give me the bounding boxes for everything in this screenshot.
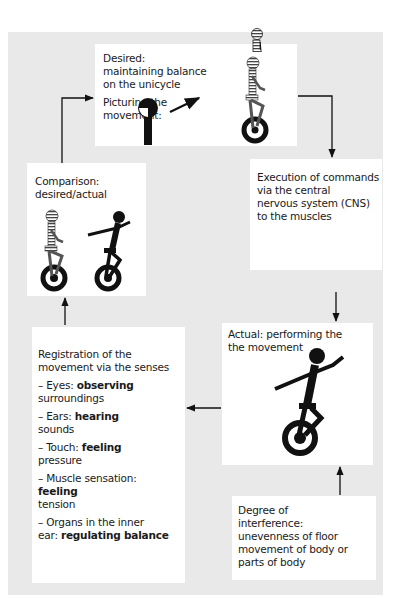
comparison-actual-unicyclist-icon — [88, 211, 130, 289]
arrow-comparison-to-desired — [62, 98, 93, 163]
comparison-figures — [32, 208, 142, 294]
desired-unicyclist-figure — [225, 52, 285, 146]
diagram-graphics — [0, 0, 402, 599]
imagination-arrow-icon — [170, 98, 199, 112]
mind-head-icon — [138, 98, 158, 145]
arrow-desired-to-execution — [298, 96, 332, 157]
actual-unicyclist-icon — [255, 345, 365, 460]
comparison-desired-unicyclist-icon — [43, 210, 65, 289]
